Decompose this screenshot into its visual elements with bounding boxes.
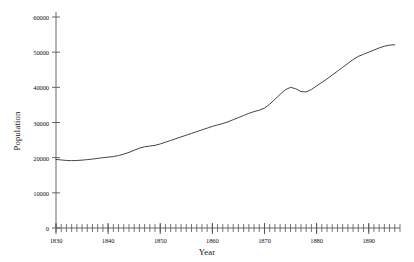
x-axis-tick-label: 1830: [50, 237, 63, 244]
y-axis-tick-label: 0: [46, 225, 49, 232]
x-axis-title: Year: [0, 247, 414, 257]
x-axis-tick-label: 1880: [310, 237, 323, 244]
x-axis-tick-label: 1890: [362, 237, 375, 244]
chart-plot-area: [0, 0, 414, 262]
x-axis-tick-label: 1850: [154, 237, 167, 244]
x-axis-tick-label: 1840: [102, 237, 115, 244]
population-line-chart: Population Year 010000200003000040000500…: [0, 0, 414, 262]
y-axis-tick-label: 20000: [33, 154, 49, 161]
y-axis-tick-label: 10000: [33, 189, 49, 196]
x-axis-tick-label: 1870: [258, 237, 271, 244]
y-axis-tick-label: 60000: [33, 14, 49, 21]
y-axis-tick-label: 40000: [33, 84, 49, 91]
y-axis-title: Population: [12, 86, 22, 176]
data-series-line: [56, 45, 395, 161]
y-axis-tick-label: 30000: [33, 119, 49, 126]
x-axis-tick-label: 1860: [206, 237, 219, 244]
y-axis-tick-label: 50000: [33, 49, 49, 56]
